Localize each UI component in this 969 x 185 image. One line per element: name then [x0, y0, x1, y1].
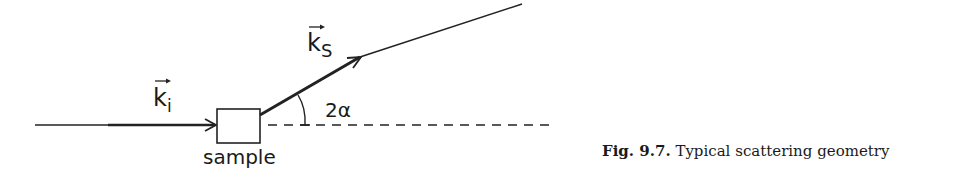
figure-caption: Fig. 9.7. Typical scattering geometry: [602, 142, 889, 160]
angle-arc: [298, 95, 305, 125]
angle-label: 2α: [325, 98, 351, 122]
ki-vector-arrow-icon: [166, 79, 171, 84]
sample-label: sample: [203, 145, 276, 169]
incident-wavevector-label: ki: [153, 84, 172, 112]
scattered-beam-line: [360, 4, 522, 57]
figure-caption-text: Typical scattering geometry: [675, 142, 889, 160]
figure-number: Fig. 9.7.: [602, 142, 671, 160]
scattered-wavevector-label: kS: [307, 29, 332, 57]
sample-box: [217, 109, 260, 143]
